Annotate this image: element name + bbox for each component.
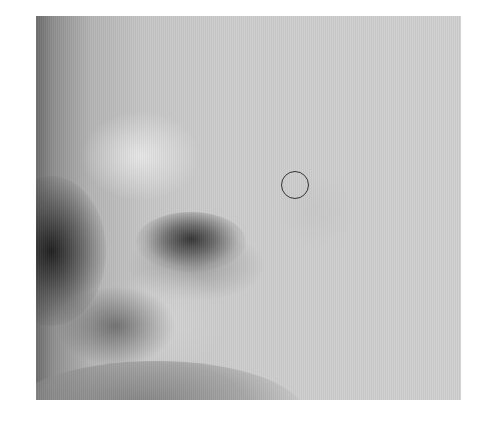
- circle-marker-icon: [281, 171, 309, 199]
- face-photo: [36, 16, 461, 400]
- scan-texture: [36, 16, 461, 400]
